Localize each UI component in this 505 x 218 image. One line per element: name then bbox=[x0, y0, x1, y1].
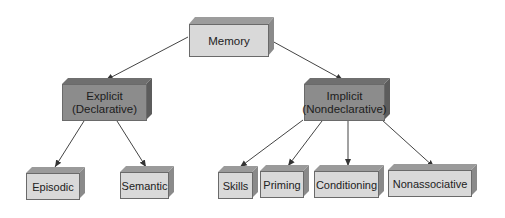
conditioning-box: Conditioning bbox=[314, 171, 379, 198]
episodic-box: Episodic bbox=[26, 173, 80, 200]
priming-label: Priming bbox=[263, 179, 300, 191]
explicit-label-line2: (Declarative) bbox=[72, 103, 137, 116]
skills-label: Skills bbox=[223, 180, 249, 192]
skills-box: Skills bbox=[218, 172, 253, 199]
episodic-label: Episodic bbox=[32, 181, 74, 193]
conditioning-label: Conditioning bbox=[316, 179, 377, 191]
semantic-label: Semantic bbox=[122, 180, 168, 192]
memory-label: Memory bbox=[208, 35, 250, 47]
implicit-label-line1: Implicit bbox=[327, 90, 363, 103]
semantic-box: Semantic bbox=[120, 172, 169, 199]
priming-box: Priming bbox=[260, 171, 304, 198]
explicit-label-line1: Explicit bbox=[86, 90, 122, 103]
memory-top-face bbox=[189, 17, 274, 24]
implicit-box: Implicit (Nondeclarative) bbox=[304, 84, 385, 121]
explicit-box: Explicit (Declarative) bbox=[62, 84, 147, 121]
nonassociative-label: Nonassociative bbox=[393, 178, 468, 190]
implicit-label-line2: (Nondeclarative) bbox=[302, 103, 386, 116]
nonassociative-box: Nonassociative bbox=[388, 170, 472, 197]
memory-box: Memory bbox=[189, 24, 269, 57]
